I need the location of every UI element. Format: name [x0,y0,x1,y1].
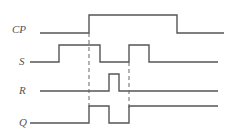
q-waveform [30,106,218,123]
timing-diagram: CP S R Q [0,0,239,139]
signal-label-cp: CP [12,24,26,35]
signal-label-r: R [19,85,26,96]
cp-waveform [40,15,224,33]
waveform-canvas [0,0,239,139]
signal-label-s: S [19,56,25,67]
s-waveform [30,45,218,62]
signal-label-q: Q [19,117,27,128]
